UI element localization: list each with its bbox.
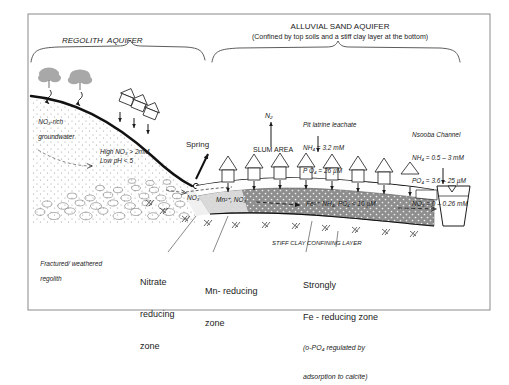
label-fractured-regolith: Fractured/ weathered regolith [33,252,102,290]
label-high-no3: High NO₃ > 2mM [100,148,149,156]
heading-alluvial-aquifer: ALLUVIAL SAND AQUIFER [238,22,442,31]
mn-zone-line-1: Mn- reducing [205,286,258,297]
fractured-line2: regolith [40,275,61,282]
fe-zone-line-2: Fe - reducing zone [303,312,378,323]
pit-latrine-title: Pit latrine leachate [303,121,356,129]
nsooba-line-1: NH₄ = 0.5 – 3 mM [412,154,468,162]
fe-zone-line-1: Strongly [303,280,378,291]
label-low-ph: Low pH < 5 [100,157,133,165]
caption-nitrate-reducing-zone: Nitrate reducing zone [140,256,175,373]
no3-rich-line2: groundwater [38,133,74,140]
heading-alluvial-aquifer-subtitle: (Confined by top soils and a stiff clay … [218,33,462,41]
label-mn-no3: Mn²⁺, NO₃ [216,196,246,204]
label-fe-zone-chemistry: Fe²⁺, NH₄, PO₄ < 10 µM [306,200,376,208]
fe-zone-note-1: (o-PO₄ regulated by [303,344,378,352]
label-spring: Spring [186,140,209,149]
nitrate-zone-line-3: zone [140,341,175,352]
nsooba-line-2: PO₄ = 3.6 – 25 µM [412,177,468,185]
heading-regolith-aquifer: REGOLITH AQUIFER [62,36,212,45]
pit-latrine-line-1: NH₄ = 3.2 mM [303,144,356,152]
nitrate-zone-line-2: reducing [140,309,175,320]
callout-pit-latrine: Pit latrine leachate NH₄ = 3.2 mM P O₄ =… [303,106,356,190]
label-no3-plume: NO₃ [187,194,199,202]
caption-fe-reducing-zone: Strongly Fe - reducing zone (o-PO₄ regul… [303,259,378,385]
label-no3-rich-groundwater: NO₃-rich groundwater [31,110,74,148]
fractured-line1: Fractured/ weathered [40,260,102,267]
label-stiff-clay-confining-layer: STIFF CLAY CONFINING LAYER [272,240,362,247]
fe-zone-note-2: adsorption to calcite) [303,373,378,381]
no3-rich-line1: NO₃-rich [38,118,63,125]
nitrate-zone-line-1: Nitrate [140,277,175,288]
nsooba-line-3: NO₃ = 0 – 0.26 mM [412,200,468,208]
label-slum-area: SLUM AREA [253,146,293,154]
nsooba-title: Nsooba Channel [412,131,468,139]
mn-zone-line-2: zone [205,318,258,329]
label-n2: N₂ [265,112,273,120]
caption-mn-reducing-zone: Mn- reducing zone [205,265,258,350]
pit-latrine-line-2: P O₄ = 26 µM [303,167,356,175]
callout-nsooba-channel: Nsooba Channel NH₄ = 0.5 – 3 mM PO₄ = 3.… [412,116,468,223]
